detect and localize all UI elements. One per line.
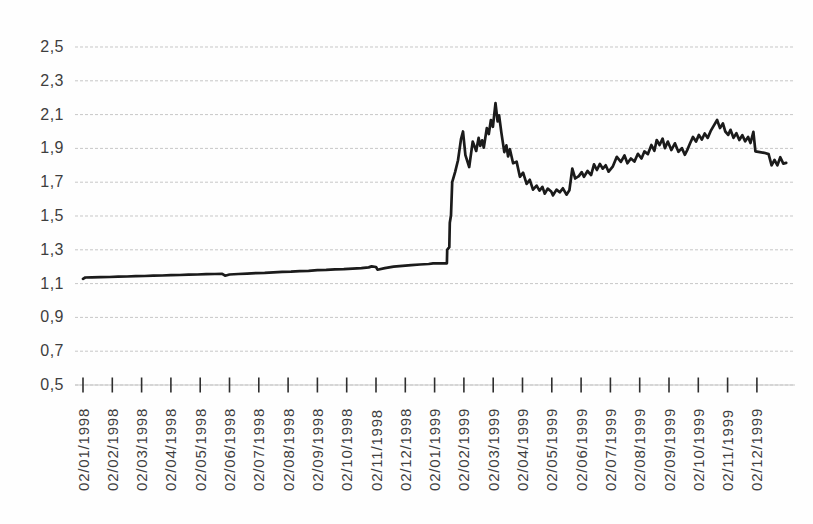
y-axis-tick-label: 2,5 xyxy=(22,39,64,55)
x-axis-tick-label: 02/11/1998 xyxy=(369,409,384,491)
x-axis-tick-label: 02/08/1998 xyxy=(281,408,296,491)
y-axis-tick-label: 1,9 xyxy=(22,140,64,156)
x-axis-tick-label: 02/04/1999 xyxy=(515,408,530,491)
x-axis-tick-label: 02/07/1999 xyxy=(603,408,618,491)
x-axis-tick-label: 02/11/1999 xyxy=(720,409,735,491)
x-axis-tick-label: 02/12/1998 xyxy=(398,408,413,491)
x-axis-tick-label: 02/09/1998 xyxy=(310,408,325,491)
line-chart: 2,52,32,11,91,71,51,31,10,90,70,5 02/01/… xyxy=(0,0,813,524)
x-axis-tick-label: 02/05/1999 xyxy=(544,408,559,491)
x-axis-tick-label: 02/03/1999 xyxy=(486,408,501,491)
chart-page: 2,52,32,11,91,71,51,31,10,90,70,5 02/01/… xyxy=(0,0,813,524)
x-axis-tick-label: 02/03/1998 xyxy=(134,408,149,491)
x-axis-tick-label: 02/06/1999 xyxy=(574,408,589,491)
x-axis-tick-label: 02/08/1999 xyxy=(632,408,647,491)
x-axis-tick-label: 02/04/1998 xyxy=(163,408,178,491)
y-axis-tick-label: 1,7 xyxy=(22,174,64,190)
data-line-exchange-rate xyxy=(83,103,786,279)
y-axis-tick-label: 0,9 xyxy=(22,309,64,325)
x-axis-tick-label: 02/07/1998 xyxy=(251,408,266,491)
x-axis-tick-label: 02/02/1999 xyxy=(456,408,471,491)
y-axis-tick-label: 1,5 xyxy=(22,208,64,224)
y-axis-tick-label: 1,1 xyxy=(22,276,64,292)
x-axis-tick-label: 02/01/1998 xyxy=(76,408,91,491)
x-axis-tick-label: 02/01/1999 xyxy=(427,408,442,491)
x-axis-tick-label: 02/09/1999 xyxy=(662,408,677,491)
y-axis-tick-label: 0,7 xyxy=(22,343,64,359)
y-axis-tick-label: 2,3 xyxy=(22,73,64,89)
y-axis-tick-label: 0,5 xyxy=(22,377,64,393)
y-axis-tick-label: 1,3 xyxy=(22,242,64,258)
x-axis-tick-label: 02/06/1998 xyxy=(222,408,237,491)
x-axis-tick-label: 02/10/1998 xyxy=(339,408,354,491)
x-axis-tick-label: 02/05/1998 xyxy=(193,408,208,491)
x-axis-tick-label: 02/10/1999 xyxy=(691,408,706,491)
x-axis-tick-label: 02/02/1998 xyxy=(105,408,120,491)
x-axis-tick-label: 02/12/1999 xyxy=(749,408,764,491)
y-axis-tick-label: 2,1 xyxy=(22,107,64,123)
